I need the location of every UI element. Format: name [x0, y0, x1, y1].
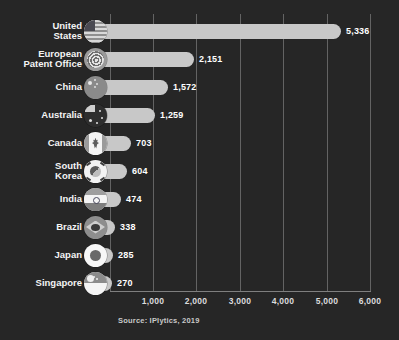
row-label-line: Brazil [56, 222, 82, 233]
table-row[interactable]: Canada 703 [0, 130, 399, 156]
table-row[interactable]: China 1,572 [0, 74, 399, 100]
table-row[interactable]: United States 5,336 [0, 18, 399, 44]
row-label-australia: Australia [0, 102, 82, 128]
flag-us-icon [84, 20, 107, 43]
bar-value-japan: 285 [118, 248, 134, 263]
bar-value-singapore: 270 [117, 276, 133, 291]
flag-cn-icon [84, 76, 107, 99]
row-label-china: China [0, 74, 82, 100]
x-tick-6000: 6,000 [359, 296, 381, 306]
flag-epo-icon [84, 48, 107, 71]
row-label-line: Australia [41, 110, 82, 121]
table-row[interactable]: India 474 [0, 186, 399, 212]
source-note: Source: IPlytics, 2019 [118, 316, 200, 325]
flag-br-icon [84, 216, 107, 239]
row-label-line: States [53, 31, 82, 42]
bar-value-china: 1,572 [173, 80, 197, 95]
x-tick-5000: 5,000 [316, 296, 338, 306]
x-tick-4000: 4,000 [272, 296, 294, 306]
table-row[interactable]: Australia 1,259 [0, 102, 399, 128]
table-row[interactable]: South Korea 604 [0, 158, 399, 184]
row-label-singapore: Singapore [0, 270, 82, 296]
table-row[interactable]: European Patent Office 2,151 [0, 46, 399, 72]
row-label-line: Japan [55, 250, 82, 261]
bar-united-states[interactable] [90, 24, 341, 39]
flag-in-icon [84, 188, 107, 211]
row-label-line: Patent Office [23, 59, 82, 70]
x-tick-3000: 3,000 [229, 296, 251, 306]
bar-chart: United States 5,336 European Patent Offi… [0, 0, 399, 340]
row-label-line: India [60, 194, 82, 205]
row-label-brazil: Brazil [0, 214, 82, 240]
row-label-line: China [56, 82, 82, 93]
flag-ca-icon [84, 132, 107, 155]
row-label-japan: Japan [0, 242, 82, 268]
table-row[interactable]: Japan 285 [0, 242, 399, 268]
x-tick-2000: 2,000 [185, 296, 207, 306]
row-label-canada: Canada [0, 130, 82, 156]
flag-sg-icon [84, 272, 107, 295]
row-label-line: Singapore [36, 278, 82, 289]
row-label-south-korea: South Korea [0, 158, 82, 184]
flag-au-icon [84, 104, 107, 127]
flag-jp-icon [84, 244, 107, 267]
x-tick-1000: 1,000 [142, 296, 164, 306]
bar-value-canada: 703 [136, 136, 152, 151]
row-label-european-patent-office: European Patent Office [0, 46, 82, 72]
bar-value-united-states: 5,336 [346, 24, 370, 39]
row-label-line: Canada [48, 138, 82, 149]
bar-value-south-korea: 604 [132, 164, 148, 179]
row-label-united-states: United States [0, 18, 82, 44]
row-label-india: India [0, 186, 82, 212]
bar-value-brazil: 338 [120, 220, 136, 235]
bar-value-european-patent-office: 2,151 [199, 52, 223, 67]
bar-value-australia: 1,259 [160, 108, 184, 123]
flag-kr-icon [84, 160, 107, 183]
table-row[interactable]: Singapore 270 [0, 270, 399, 296]
bar-value-india: 474 [126, 192, 142, 207]
table-row[interactable]: Brazil 338 [0, 214, 399, 240]
row-label-line: Korea [55, 171, 82, 182]
